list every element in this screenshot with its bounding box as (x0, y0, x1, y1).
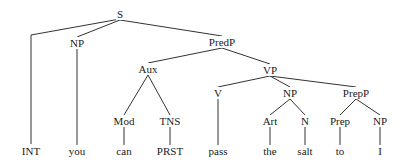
tree-node-prepp: PrepP (342, 87, 370, 99)
tree-node-you: you (68, 145, 87, 157)
tree-edge-predp-vp (222, 48, 270, 64)
tree-node-np2: NP (282, 87, 298, 99)
tree-node-to: to (335, 145, 346, 157)
tree-node-mod: Mod (113, 115, 136, 127)
tree-node-n: N (300, 115, 310, 127)
tree-node-prst: PRST (156, 145, 184, 157)
tree-edge-prepp-prep (340, 99, 356, 115)
tree-node-i: I (377, 145, 383, 157)
tree-node-predp: PredP (208, 36, 236, 48)
tree-edge-vp-prepp (270, 76, 356, 87)
tree-node-art: Art (262, 115, 279, 127)
tree-node-s: S (116, 8, 124, 20)
tree-node-int: INT (21, 145, 41, 157)
tree-edge-aux-mod (124, 75, 148, 115)
tree-node-aux: Aux (138, 63, 159, 75)
tree-node-pass: pass (208, 145, 229, 157)
tree-node-np1: NP (69, 37, 85, 49)
tree-node-v: V (213, 87, 223, 99)
tree-node-prep: Prep (329, 115, 351, 127)
tree-node-vp: VP (262, 64, 278, 76)
tree-node-can: can (115, 145, 132, 157)
tree-edge-vp-v (218, 76, 270, 87)
tree-node-tns: TNS (159, 115, 182, 127)
tree-node-the: the (262, 145, 277, 157)
tree-edge-np2-art (270, 99, 290, 115)
tree-edge-np2-n (290, 99, 305, 115)
tree-edge-predp-aux (148, 48, 222, 63)
tree-edge-prepp-np3 (356, 99, 380, 115)
tree-node-np3: NP (372, 115, 388, 127)
tree-edge-aux-tns (148, 75, 170, 115)
tree-node-salt: salt (296, 145, 313, 157)
tree-edge-s-predp (120, 20, 222, 36)
syntax-tree-diagram: SNPPredPAuxVPVNPPrepPModTNSArtNPrepNPINT… (0, 0, 409, 168)
tree-edges (0, 0, 409, 168)
